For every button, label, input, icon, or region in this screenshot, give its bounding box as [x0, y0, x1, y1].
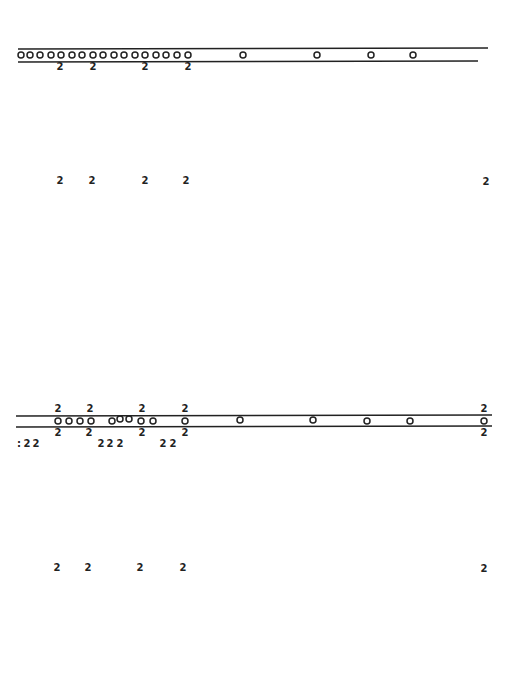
bottom-track-labels-below-label: 2: [55, 428, 62, 438]
bottom-track-labels-lower-row-label: 2: [98, 439, 105, 449]
bottom-projection-labels-label: 2: [137, 563, 144, 573]
bottom-track-labels-lower-row-label: 2: [160, 439, 167, 449]
bottom-track-labels-lower-row-label: 2: [107, 439, 114, 449]
bottom-track-labels-below-label: 2: [481, 428, 488, 438]
bottom-track-circle-marker: [364, 418, 370, 424]
top-track-circle-marker: [174, 52, 180, 58]
top-track-circle-marker: [240, 52, 246, 58]
bottom-track-circle-marker: [407, 418, 413, 424]
top-track-circle-marker: [132, 52, 138, 58]
bottom-track-labels-below-label: 2: [139, 428, 146, 438]
top-projection-labels-label: 2: [142, 176, 149, 186]
bottom-track-labels-above-label: 2: [139, 404, 146, 414]
top-projection-labels-label: 2: [89, 176, 96, 186]
top-track-labels-label: 2: [142, 62, 149, 72]
top-track-circle-marker: [121, 52, 127, 58]
bottom-track-edge-marks-label: :: [17, 439, 21, 449]
bottom-track-labels-above-label: 2: [87, 404, 94, 414]
top-track-circle-marker: [111, 52, 117, 58]
bottom-projection-labels-label: 2: [85, 563, 92, 573]
bottom-track-labels-above-label: 2: [55, 404, 62, 414]
top-track-labels-label: 2: [185, 62, 192, 72]
particle-circles: [18, 52, 487, 424]
bottom-track-labels-below-label: 2: [86, 428, 93, 438]
top-track-circle-marker: [100, 52, 106, 58]
bottom-track-circle-marker: [117, 416, 123, 422]
bottom-track-circle-marker: [109, 418, 115, 424]
bottom-track-circle-marker: [182, 418, 188, 424]
top-track-circle-marker: [153, 52, 159, 58]
top-track-circle-marker: [37, 52, 43, 58]
top-track-rail-line: [18, 61, 478, 62]
top-track-circle-marker: [69, 52, 75, 58]
bottom-track-circle-marker: [138, 418, 144, 424]
bottom-track-labels-above-label: 2: [481, 404, 488, 414]
bottom-track-circle-marker: [55, 418, 61, 424]
top-projection-labels-label: 2: [483, 177, 490, 187]
bottom-track-labels-above-label: 2: [182, 404, 189, 414]
top-track-circle-marker: [79, 52, 85, 58]
top-track-circle-marker: [314, 52, 320, 58]
top-track-rail-line: [18, 48, 488, 49]
bottom-projection-labels-label: 2: [54, 563, 61, 573]
bottom-track-circle-marker: [66, 418, 72, 424]
top-track-circle-marker: [18, 52, 24, 58]
bottom-track-labels-lower-row-label: 2: [24, 439, 31, 449]
top-track-circle-marker: [368, 52, 374, 58]
bottom-track-labels-lower-row-label: 2: [170, 439, 177, 449]
top-track-circle-marker: [142, 52, 148, 58]
top-track-labels-label: 2: [57, 62, 64, 72]
top-track-labels-label: 2: [90, 62, 97, 72]
top-projection-labels-label: 2: [183, 176, 190, 186]
bottom-track-circle-marker: [150, 418, 156, 424]
top-track-circle-marker: [185, 52, 191, 58]
top-track-circle-marker: [58, 52, 64, 58]
top-track-circle-marker: [163, 52, 169, 58]
bottom-track-circle-marker: [310, 417, 316, 423]
bottom-track-labels-lower-row-label: 2: [117, 439, 124, 449]
top-track-circle-marker: [27, 52, 33, 58]
bottom-track-labels-below-label: 2: [182, 428, 189, 438]
bottom-track-circle-marker: [481, 418, 487, 424]
bottom-projection-labels-label: 2: [180, 563, 187, 573]
top-track-circle-marker: [410, 52, 416, 58]
diagram-canvas: [0, 0, 510, 678]
top-track-circle-marker: [90, 52, 96, 58]
bottom-track-circle-marker: [237, 417, 243, 423]
track-rails: [16, 48, 492, 427]
bottom-track-labels-lower-row-label: 2: [33, 439, 40, 449]
top-track-circle-marker: [48, 52, 54, 58]
bottom-track-rail-line: [16, 415, 492, 416]
bottom-track-circle-marker: [126, 416, 132, 422]
top-projection-labels-label: 2: [57, 176, 64, 186]
bottom-projection-labels-label: 2: [481, 564, 488, 574]
bottom-track-circle-marker: [77, 418, 83, 424]
bottom-track-circle-marker: [88, 418, 94, 424]
